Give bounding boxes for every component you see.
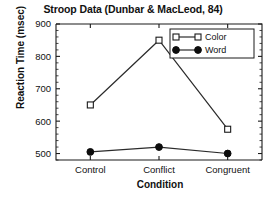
legend-marker xyxy=(173,47,180,54)
x-tick-label: Control xyxy=(75,164,106,175)
data-point-marker xyxy=(156,37,162,43)
data-point-marker xyxy=(87,102,93,108)
y-tick-label: 700 xyxy=(35,83,51,94)
data-point-marker xyxy=(225,126,231,132)
legend-label: Word xyxy=(205,45,226,55)
y-tick-label: 900 xyxy=(35,18,51,29)
plot-area: 500600700800900 ControlConflictCongruent… xyxy=(0,0,266,197)
y-tick-label: 600 xyxy=(35,116,51,127)
chart-figure: Stroop Data (Dunbar & MacLeod, 84) React… xyxy=(0,0,266,197)
y-tick-label: 500 xyxy=(35,148,51,159)
y-tick-label: 800 xyxy=(35,51,51,62)
legend-label: Color xyxy=(205,32,227,42)
chart-legend: ColorWord xyxy=(170,29,254,58)
legend-marker xyxy=(195,34,201,40)
legend-marker xyxy=(195,47,202,54)
y-tick-labels: 500600700800900 xyxy=(35,18,51,159)
legend-marker xyxy=(173,34,179,40)
data-point-marker xyxy=(156,144,163,151)
series-word xyxy=(87,144,231,157)
x-tick-label: Conflict xyxy=(143,164,175,175)
data-point-marker xyxy=(87,149,94,156)
data-point-marker xyxy=(224,150,231,157)
x-tick-label: Congruent xyxy=(205,164,250,175)
x-tick-labels: ControlConflictCongruent xyxy=(75,164,250,175)
